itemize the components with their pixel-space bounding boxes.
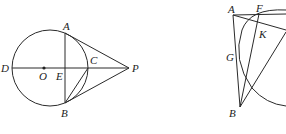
label-f: F	[255, 2, 263, 14]
label-b: B	[61, 107, 68, 119]
segment-b-right	[240, 32, 286, 107]
label-g: G	[226, 51, 234, 63]
label-k: K	[258, 28, 267, 40]
label-c: C	[90, 54, 98, 66]
arc	[239, 10, 286, 106]
label-a-right: A	[227, 3, 235, 15]
label-e: E	[55, 70, 63, 82]
segment-af	[233, 14, 286, 15]
label-o: O	[39, 70, 47, 82]
label-b-right: B	[229, 107, 236, 119]
geometry-figures: A B C D E O P A F K G B	[0, 0, 286, 134]
segment-bc	[65, 68, 88, 103]
figure-right: A F K G B	[226, 2, 286, 119]
label-d: D	[0, 62, 9, 74]
figure-left: A B C D E O P	[0, 20, 139, 119]
segment-ab	[233, 15, 240, 107]
label-a: A	[62, 20, 70, 32]
label-p: P	[131, 62, 139, 74]
tangent-pb	[65, 68, 129, 103]
